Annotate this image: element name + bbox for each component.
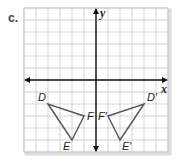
grid [24, 8, 170, 154]
vertex-label: E [63, 140, 71, 152]
vertex-label: D′ [147, 91, 158, 103]
x-axis-label: x [160, 82, 167, 96]
y-axis-label: y [98, 6, 106, 20]
vertex-label: E′ [122, 140, 132, 152]
coordinate-plane: DEFD′E′F′ x y [0, 0, 185, 161]
vertex-label: D [38, 91, 46, 103]
vertex-label: F′ [98, 110, 108, 122]
